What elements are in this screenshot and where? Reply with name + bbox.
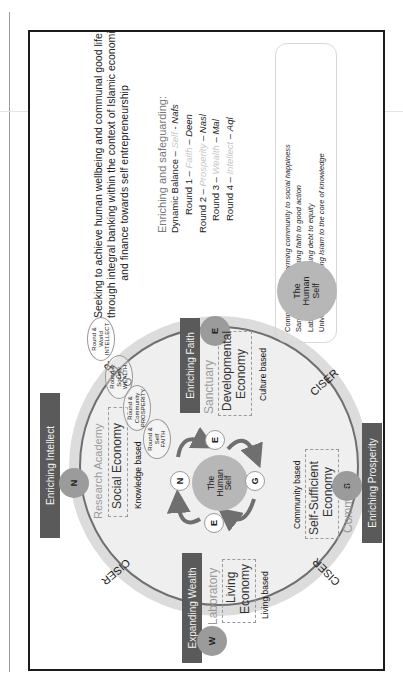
dynamic-balance-row: Dynamic Balance – Self - Nafs — [168, 96, 182, 233]
enriching-safeguarding-block: Enriching and safeguarding: Dynamic Bala… — [156, 96, 237, 233]
center-node-g: G — [245, 471, 265, 491]
round-4-row: Round 4 – Intellect – Aql — [223, 96, 237, 233]
diagram-frame: CISER CISER CISER CISER Enriching Intell… — [28, 30, 385, 671]
legend-human-self-circle: TheHumanSelf — [277, 261, 337, 321]
center-node-n: N — [170, 471, 190, 491]
round-3-row: Round 3 – Wealth – Mal — [209, 96, 223, 233]
center-node-e-bottom: E — [204, 513, 224, 533]
center-node-e-top: E — [205, 430, 225, 450]
diagram-canvas: CISER CISER CISER CISER Enriching Intell… — [30, 32, 383, 669]
human-self-center: TheHumanSelf — [192, 455, 248, 511]
enriching-title: Enriching and safeguarding: — [156, 96, 168, 233]
diagram-heading: Seeking to achieve human wellbeing and c… — [92, 48, 131, 318]
round-1-row: Round 1 – Faith – Deen — [182, 96, 196, 233]
round-2-row: Round 2 – Prosperity – Nasl — [196, 96, 210, 233]
